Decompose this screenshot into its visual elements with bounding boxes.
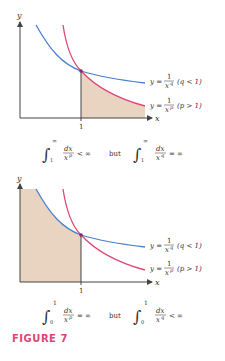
figure-7: y x 1 y = 1 x q (q < 1) y = 1 x p (p > 1… [0,0,225,361]
caption-1: ∫ ∞ 1 dx x p < ∞ but ∫ ∞ 1 dx x q = ∞ [42,137,183,164]
svg-text:but: but [109,150,121,158]
svg-text:x: x [156,154,160,162]
svg-text:y =: y = [149,102,162,110]
svg-text:x: x [156,316,160,324]
svg-text:x: x [165,269,169,277]
svg-text:x: x [165,106,169,114]
svg-text:∞: ∞ [52,137,57,144]
shaded-region-near-zero [20,189,81,282]
legend-q: y = 1 x q (q < 1) [149,237,202,254]
x-tick-1: 1 [79,123,83,131]
svg-text:q: q [170,80,173,87]
svg-text:1: 1 [50,157,53,163]
svg-text:= ∞: = ∞ [77,312,91,320]
x-axis-label: x [155,114,160,123]
svg-text:< ∞: < ∞ [77,150,91,158]
curve-q [36,25,145,83]
svg-text:1: 1 [141,157,144,163]
svg-text:1: 1 [53,299,57,306]
svg-text:(p > 1): (p > 1) [177,265,202,273]
plot-1: y x 1 y = 1 x q (q < 1) y = 1 x p (p > 1… [16,11,202,164]
x-tick-1: 1 [79,287,83,295]
intersection-point [79,69,83,73]
svg-text:x: x [165,246,169,254]
legend-p: y = 1 x p (p > 1) [149,97,202,114]
intersection-point [79,233,83,237]
svg-text:(p > 1): (p > 1) [177,102,202,110]
legend-p: y = 1 x p (p > 1) [149,260,202,277]
svg-text:1: 1 [144,299,148,306]
plot-2: y x 1 y = 1 x q (q < 1) y = 1 x p (p > 1… [16,174,202,326]
svg-text:q: q [161,152,164,159]
svg-text:q: q [170,244,173,251]
caption-2: ∫ 1 0 dx x p = ∞ but ∫ 1 0 dx x q < ∞ [42,299,183,326]
svg-text:∞: ∞ [143,137,148,144]
y-axis-label: y [16,11,22,20]
legend-q: y = 1 x q (q < 1) [149,73,202,90]
figure-label: FIGURE 7 [12,333,68,344]
svg-text:0: 0 [50,319,53,325]
svg-text:q: q [161,314,164,321]
svg-text:y =: y = [149,265,162,273]
svg-text:x: x [64,316,68,324]
svg-text:< ∞: < ∞ [169,312,183,320]
y-axis-label: y [16,174,22,183]
svg-text:(q < 1): (q < 1) [177,242,202,250]
svg-text:(q < 1): (q < 1) [177,78,202,86]
svg-text:x: x [165,82,169,90]
x-axis-label: x [155,278,160,287]
svg-text:= ∞: = ∞ [169,150,183,158]
svg-text:x: x [64,154,68,162]
svg-text:y =: y = [149,242,162,250]
svg-text:y =: y = [149,78,162,86]
svg-text:0: 0 [141,319,144,325]
svg-text:but: but [109,312,121,320]
